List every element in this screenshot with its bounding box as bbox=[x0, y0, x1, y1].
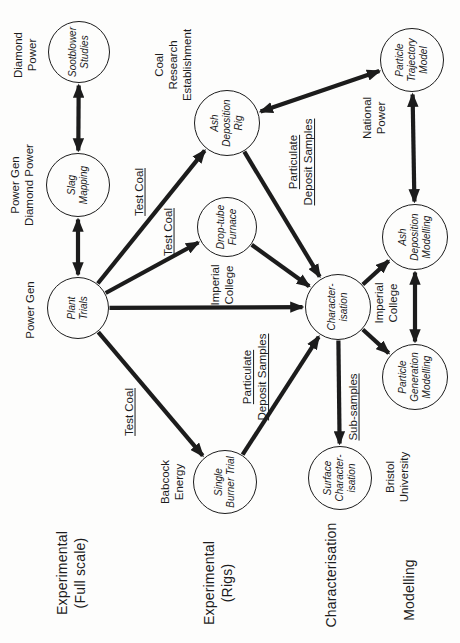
node-characterisation-node: Character- isation bbox=[305, 274, 371, 340]
node-label: Plant Trials bbox=[66, 296, 90, 320]
arrow-plant-droptube bbox=[106, 243, 199, 294]
org-label-imperial-college-characterisation: Imperial College bbox=[372, 283, 400, 324]
edge-label-pds-rig: Particulate Deposit Samples bbox=[286, 119, 316, 206]
node-slag-mapping: Slag Mapping bbox=[46, 153, 110, 217]
node-label: Surface Character- isation bbox=[322, 454, 357, 501]
arrow-charac-adm bbox=[363, 261, 389, 285]
node-label: Character- isation bbox=[326, 283, 350, 330]
edge-label-test-coal-burner: Test Coal bbox=[122, 388, 137, 436]
arrow-charac-pgm bbox=[363, 330, 389, 354]
diagram-canvas: Plant TrialsSlag MappingSootblower Studi… bbox=[0, 0, 460, 643]
org-label-national-power: National Power bbox=[360, 97, 388, 139]
node-drop-tube-furnace: Drop-tube Furnace bbox=[197, 197, 257, 257]
org-label-babcock-energy: Babcock Energy bbox=[158, 460, 186, 504]
arrow-droptube-charac bbox=[252, 245, 310, 286]
node-ash-deposition-rig: Ash Deposition Rig bbox=[194, 90, 260, 156]
node-label: Slag Mapping bbox=[66, 166, 90, 204]
edge-label-test-coal-furnace: Test Coal bbox=[161, 208, 176, 256]
arrow-ptm-adm bbox=[413, 95, 415, 202]
node-label: Particle Generation Modelling bbox=[397, 352, 432, 401]
row-header-characterisation: Characterisation bbox=[322, 522, 340, 627]
edge-label-test-coal-rig: Test Coal bbox=[132, 168, 147, 216]
arrow-plant-ashrig bbox=[98, 151, 205, 284]
node-label: Drop-tube Furnace bbox=[215, 205, 239, 249]
org-label-power-gen: Power Gen bbox=[23, 281, 37, 339]
arrow-plant-charac bbox=[110, 307, 303, 308]
node-particle-trajectory-model: Particle Trajectory Model bbox=[380, 28, 444, 92]
edge-label-pds-burner: Particulate Deposit Samples bbox=[240, 334, 270, 421]
row-header-experimental-rigs: Experimental (Rigs) bbox=[200, 541, 236, 625]
node-single-burner-trial: Single Burner Trial bbox=[193, 450, 257, 514]
node-label: Sootblower Studies bbox=[67, 27, 91, 77]
scanned-page: Plant TrialsSlag MappingSootblower Studi… bbox=[0, 0, 460, 643]
node-label: Ash Deposition Modelling bbox=[397, 213, 432, 260]
org-label-bristol-university: Bristol University bbox=[383, 452, 411, 502]
arrow-charac-surface bbox=[338, 341, 339, 444]
node-plant-trials: Plant Trials bbox=[47, 277, 109, 339]
node-label: Ash Deposition Rig bbox=[209, 99, 244, 146]
org-label-power-gen-diamond-power: Power Gen Diamond Power bbox=[8, 144, 36, 226]
node-surface-characterisation: Surface Character- isation bbox=[308, 446, 372, 510]
org-label-imperial-college-furnace: Imperial College bbox=[208, 265, 236, 306]
arrow-plant-burner bbox=[98, 332, 202, 456]
node-sootblower-studies: Sootblower Studies bbox=[48, 21, 110, 83]
row-header-modelling: Modelling bbox=[400, 559, 418, 621]
node-label: Particle Trajectory Model bbox=[394, 38, 429, 82]
row-header-experimental-full-scale: Experimental (Full scale) bbox=[53, 531, 89, 615]
node-particle-generation-modelling: Particle Generation Modelling bbox=[382, 344, 448, 410]
org-label-diamond-power: Diamond Power bbox=[11, 28, 39, 83]
node-ash-deposition-modelling: Ash Deposition Modelling bbox=[382, 204, 448, 270]
node-label: Single Burner Trial bbox=[213, 456, 237, 508]
edge-label-sub-samples: Sub-samples bbox=[346, 373, 361, 440]
org-label-coal-research-establishment: Coal Research Establishment bbox=[152, 29, 194, 101]
